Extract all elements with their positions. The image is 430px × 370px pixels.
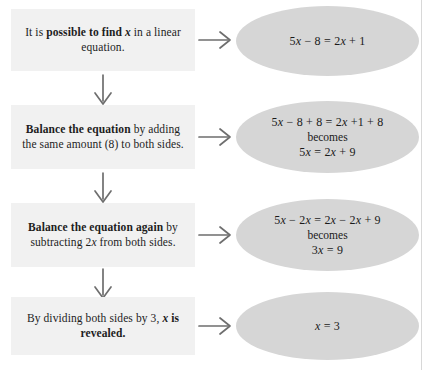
equation-ellipse-3: 5x − 2x = 2x − 2x + 9 becomes 3x = 9 xyxy=(236,199,419,271)
equation-connector: becomes xyxy=(274,228,381,243)
equation-text-1: 5x − 8 = 2x + 1 xyxy=(290,34,366,49)
equation-line: 5x − 8 = 2x + 1 xyxy=(290,34,366,49)
equation-line: 5x − 2x = 2x − 2x + 9 xyxy=(274,213,381,228)
step-box-3: Balance the equation again by subtractin… xyxy=(11,203,195,267)
equation-ellipse-2: 5x − 8 + 8 = 2x +1 + 8 becomes 5x = 2x +… xyxy=(236,101,419,173)
equation-line: 5x − 8 + 8 = 2x +1 + 8 xyxy=(272,115,384,130)
step-box-2: Balance the equation by adding the same … xyxy=(11,105,195,169)
arrow-right-icon xyxy=(198,29,234,51)
arrow-right-icon xyxy=(198,126,234,148)
step-text-1: It is possible to find x in a linear equ… xyxy=(21,25,185,56)
equation-ellipse-1: 5x − 8 = 2x + 1 xyxy=(236,6,419,76)
equation-text-3: 5x − 2x = 2x − 2x + 9 becomes 3x = 9 xyxy=(274,213,381,258)
arrow-right-icon xyxy=(198,315,234,337)
step-text-4: By dividing both sides by 3, x is reveal… xyxy=(21,311,185,342)
equation-text-4: x = 3 xyxy=(315,319,340,334)
arrow-right-icon xyxy=(198,224,234,246)
equation-line: 3x = 9 xyxy=(274,243,381,258)
equation-connector: becomes xyxy=(272,130,384,145)
arrow-down-icon xyxy=(91,172,115,206)
equation-line: 5x = 2x + 9 xyxy=(272,145,384,160)
arrow-right-3 xyxy=(198,224,234,246)
step-box-1: It is possible to find x in a linear equ… xyxy=(11,9,195,71)
equation-ellipse-4: x = 3 xyxy=(236,292,419,360)
page-right-rule xyxy=(421,0,422,370)
arrow-down-icon xyxy=(91,74,115,108)
step-1-part-1: possible to find xyxy=(46,26,125,38)
flow-diagram: It is possible to find x in a linear equ… xyxy=(0,0,430,370)
step-text-2: Balance the equation by adding the same … xyxy=(21,122,185,153)
arrow-down-2 xyxy=(91,172,115,206)
step-1-part-0: It is xyxy=(25,26,46,38)
step-2-part-0: Balance the equation xyxy=(26,123,131,135)
step-4-part-0: By dividing both sides by 3, xyxy=(27,312,162,324)
arrow-right-2 xyxy=(198,126,234,148)
step-3-part-3: from both sides. xyxy=(97,236,176,248)
step-box-4: By dividing both sides by 3, x is reveal… xyxy=(11,297,195,355)
arrow-down-1 xyxy=(91,74,115,108)
equation-line: x = 3 xyxy=(315,319,340,334)
equation-text-2: 5x − 8 + 8 = 2x +1 + 8 becomes 5x = 2x +… xyxy=(272,115,384,160)
step-3-part-0: Balance the equation again xyxy=(28,221,163,233)
step-text-3: Balance the equation again by subtractin… xyxy=(21,220,185,251)
arrow-right-4 xyxy=(198,315,234,337)
arrow-right-1 xyxy=(198,29,234,51)
